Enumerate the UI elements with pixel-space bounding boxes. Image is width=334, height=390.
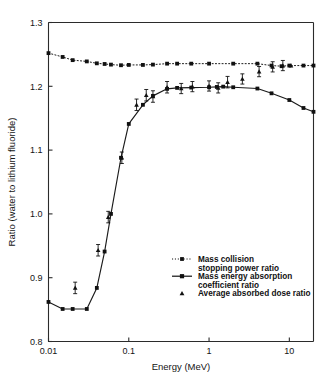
data-point-marker [221,85,225,89]
data-point-marker [71,307,75,311]
data-point-marker [231,62,235,66]
chart-series [47,51,316,68]
data-point-marker [95,61,99,65]
data-point-marker [231,85,235,89]
x-tick-label: 1 [207,346,212,356]
data-point-marker [144,93,149,97]
y-tick-label: 1.1 [30,145,43,155]
data-point-marker [103,250,107,254]
y-axis-title: Ratio (water to lithium fluoride) [6,118,17,247]
data-point-marker [47,51,51,55]
data-point-marker [103,62,107,66]
legend-sample-marker [180,257,184,261]
data-point-marker [255,87,259,91]
x-tick-label: 10 [284,346,294,356]
data-point-marker [312,110,316,114]
data-point-marker [165,62,169,66]
data-point-marker [175,86,179,90]
data-point-marker [127,63,131,67]
data-point-marker [302,64,306,68]
axis-labels-layer: 0.80.91.01.11.21.30.010.1110Energy (MeV)… [6,18,294,372]
legend-entry-label: Average absorbed dose ratio [198,289,311,298]
y-tick-label: 1.0 [30,209,43,219]
data-point-marker [207,62,211,66]
data-point-marker [61,307,65,311]
data-point-marker [119,63,123,67]
y-tick-label: 1.2 [30,82,43,92]
legend-sample-marker [180,274,184,278]
data-point-marker [302,106,306,110]
chart-figure: Mass collisionstopping power ratioMass e… [0,0,334,390]
data-point-marker [47,300,51,304]
data-point-marker [312,64,316,68]
data-point-marker [134,103,139,107]
data-point-marker [240,77,245,81]
data-point-marker [255,62,259,66]
x-tick-label: 0.01 [40,346,58,356]
data-point-marker [151,63,155,67]
data-point-marker [109,63,113,67]
data-point-marker [61,55,65,59]
data-point-marker [225,80,230,84]
data-point-marker [175,62,179,66]
y-tick-label: 1.3 [30,18,43,28]
data-point-marker [109,212,113,216]
data-point-marker [189,62,193,66]
data-point-marker [127,122,131,126]
data-point-marker [287,98,291,102]
data-point-marker [73,286,78,290]
ratio-vs-energy-chart: Mass collisionstopping power ratioMass e… [0,0,334,390]
data-point-marker [270,91,274,95]
data-point-marker [257,69,262,73]
legend-sample-marker [180,291,185,295]
data-point-marker [85,60,89,64]
chart-legend: Mass collisionstopping power ratioMass e… [172,255,311,298]
data-point-marker [85,307,89,311]
x-tick-label: 0.1 [123,346,136,356]
data-point-marker [71,58,75,62]
y-tick-label: 0.9 [30,273,43,283]
x-axis-title: Energy (MeV) [152,361,211,372]
data-point-marker [96,248,101,252]
data-point-marker [95,286,99,290]
data-point-marker [141,63,145,67]
data-point-marker [141,103,145,107]
